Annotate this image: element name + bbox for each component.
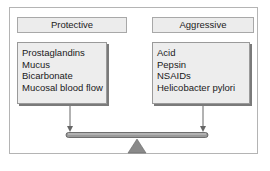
- scale-beam: [66, 133, 208, 138]
- fulcrum-icon: [128, 139, 146, 153]
- left-arrow-icon: [67, 106, 73, 132]
- balance-scale: [0, 0, 270, 171]
- right-arrow-icon: [200, 106, 206, 132]
